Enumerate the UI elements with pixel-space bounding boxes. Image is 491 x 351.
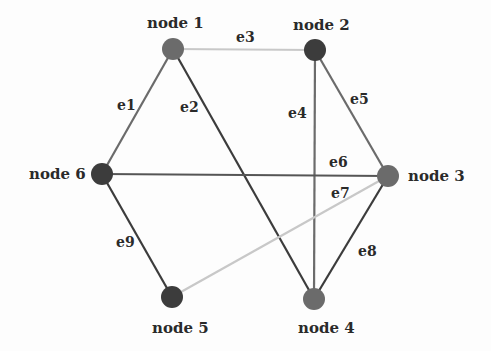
edge-e8 <box>314 176 388 299</box>
edge-label-e1: e1 <box>117 97 136 113</box>
node-label-3: node 3 <box>408 167 465 185</box>
node-4-circle <box>303 288 325 310</box>
edge-label-e9: e9 <box>116 234 135 250</box>
node-label-2: node 2 <box>293 16 350 34</box>
node-label-4: node 4 <box>298 319 355 337</box>
node-label-6: node 6 <box>29 165 86 183</box>
edge-label-e7: e7 <box>331 185 350 201</box>
edge-e9 <box>102 174 172 297</box>
node-2-circle <box>304 39 326 61</box>
edges <box>102 49 388 299</box>
graph-canvas: e1 e2 e3 e4 e5 e6 e7 e8 e9 node 1 node 2… <box>0 0 491 351</box>
node-label-1: node 1 <box>147 14 204 32</box>
edge-label-e4: e4 <box>288 105 307 121</box>
node-1-circle <box>162 38 184 60</box>
edge-e7 <box>172 176 388 297</box>
node-3-circle <box>377 165 399 187</box>
edge-e1 <box>102 49 173 174</box>
node-label-5: node 5 <box>152 319 209 337</box>
edge-label-e8: e8 <box>358 243 377 259</box>
graph-diagram: e1 e2 e3 e4 e5 e6 e7 e8 e9 node 1 node 2… <box>0 0 491 351</box>
edge-label-e5: e5 <box>350 91 369 107</box>
edge-label-e6: e6 <box>329 154 348 170</box>
node-5-circle <box>161 286 183 308</box>
edge-label-e2: e2 <box>180 99 199 115</box>
edge-e5 <box>315 50 388 176</box>
edge-labels: e1 e2 e3 e4 e5 e6 e7 e8 e9 <box>116 29 377 259</box>
edge-e3 <box>173 49 315 50</box>
node-6-circle <box>91 163 113 185</box>
edge-e6 <box>102 174 388 176</box>
edge-label-e3: e3 <box>236 29 255 45</box>
